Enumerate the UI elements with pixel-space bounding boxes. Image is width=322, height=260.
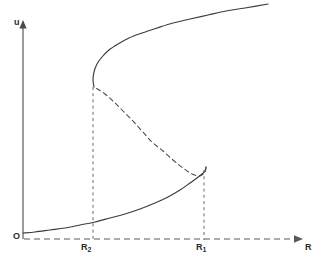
y-axis xyxy=(19,20,26,239)
bifurcation-diagram xyxy=(0,0,322,260)
tick-label-r2-subscript: 2 xyxy=(88,246,92,253)
tick-label-r1: R1 xyxy=(196,243,206,252)
tick-label-r2-base: R xyxy=(81,242,88,252)
middle-unstable-branch xyxy=(94,87,206,176)
x-axis-label: R xyxy=(305,243,312,252)
upper-stable-branch xyxy=(93,4,268,87)
y-axis-arrowhead xyxy=(19,20,26,29)
s-curve xyxy=(23,4,268,233)
tick-label-r1-base: R xyxy=(196,242,203,252)
tick-label-r1-subscript: 1 xyxy=(203,246,207,253)
x-axis xyxy=(24,235,303,243)
y-axis-label: u xyxy=(14,18,20,27)
x-axis-arrowhead xyxy=(294,235,303,243)
origin-label: O xyxy=(13,232,20,241)
tick-label-r2: R2 xyxy=(81,243,91,252)
lower-stable-branch xyxy=(23,167,206,233)
drop-lines xyxy=(93,87,204,240)
